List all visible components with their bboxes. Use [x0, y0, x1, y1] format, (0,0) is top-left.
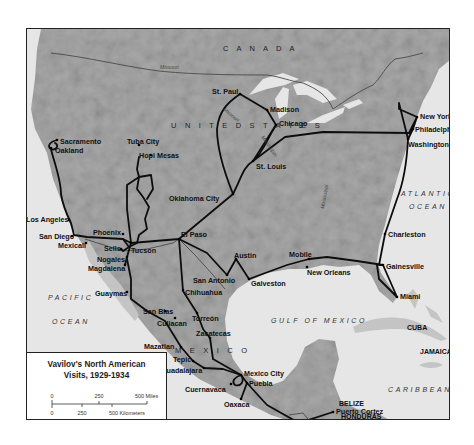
city-marker	[416, 116, 419, 119]
city-label: San Antonio	[193, 276, 236, 285]
scale-km-500: 500 Kilometers	[109, 410, 145, 416]
ocean-label: PACIFIC	[48, 294, 93, 301]
city-label: Tepic	[173, 355, 191, 364]
city-label: Mobile	[289, 250, 312, 259]
city-marker	[384, 233, 387, 236]
city-marker	[246, 382, 249, 385]
country-label: BELIZE	[339, 400, 364, 407]
city-marker	[56, 139, 59, 142]
city-marker	[248, 278, 251, 281]
country-label: GUATEMALA	[271, 418, 315, 420]
map-legend: Vavilov's North American Visits, 1929-19…	[26, 352, 167, 420]
city-label: Sacramento	[60, 137, 102, 146]
city-label: San Blas	[143, 307, 173, 316]
city-label: Cuernavaca	[185, 385, 227, 394]
city-marker	[240, 374, 243, 377]
city-label: Chicago	[279, 119, 308, 128]
city-label: Phoenix	[93, 228, 121, 237]
city-label: Tucson	[131, 246, 156, 255]
city-label: Oaxaca	[224, 400, 251, 409]
city-marker	[50, 147, 53, 150]
country-label: C A N A D A	[223, 44, 298, 53]
city-label: Culiacan	[157, 319, 187, 328]
scale-km-0: 0	[51, 410, 54, 416]
legend-title: Vavilov's North American Visits, 1929-19…	[27, 359, 166, 381]
city-label: Chihuahua	[185, 288, 223, 297]
country-label: M E X I C O	[175, 346, 250, 355]
city-marker	[332, 411, 335, 414]
city-label: New York	[420, 112, 450, 121]
city-marker	[239, 93, 242, 96]
city-label: Tuba City	[127, 137, 159, 146]
city-label: Miami	[400, 292, 420, 301]
city-label: Oklahoma City	[169, 194, 219, 203]
city-label: Guadalajara	[161, 366, 203, 375]
city-label: Madison	[270, 105, 299, 114]
city-marker	[126, 256, 129, 259]
city-label: Magdalena	[88, 264, 126, 273]
city-label: Puebla	[249, 379, 274, 388]
river-label: Missouri	[160, 64, 180, 70]
city-label: Mexicali	[58, 241, 86, 250]
legend-title-line2: Visits, 1929-1934	[27, 370, 166, 381]
city-marker	[130, 242, 133, 245]
city-label: San Diego	[39, 232, 75, 241]
city-label: Los Angeles	[27, 215, 68, 224]
country-label: JAMAICA	[420, 348, 450, 355]
ocean-label: GULF OF MEXICO	[271, 317, 367, 324]
scale-km-250: 250	[78, 410, 87, 416]
scale-bar: 0 250 500 Miles 0 250 500 Kilometers	[27, 391, 168, 419]
city-marker	[266, 109, 269, 112]
city-label: Hopi Mesas	[139, 151, 179, 160]
city-marker	[192, 360, 195, 363]
city-label: Mazatlan	[144, 342, 174, 351]
city-marker	[178, 238, 181, 241]
city-label: Torreón	[192, 314, 219, 323]
city-label: Gainesville	[386, 262, 424, 271]
city-label: Galveston	[251, 279, 286, 288]
city-label: Austin	[234, 251, 256, 260]
city-marker	[180, 346, 183, 349]
city-label: Nogales	[97, 255, 125, 264]
city-label: Zacatecas	[196, 329, 231, 338]
city-marker	[412, 128, 415, 131]
legend-title-line1: Vavilov's North American	[27, 359, 166, 370]
city-marker	[252, 160, 255, 163]
city-label: Sells	[104, 244, 121, 253]
scale-miles-0: 0	[51, 393, 54, 399]
city-label: Guaymas	[95, 289, 127, 298]
city-label: St. Louis	[256, 162, 286, 171]
city-marker	[396, 296, 399, 299]
ocean-label: ATLANTIC	[400, 190, 450, 197]
city-marker	[382, 264, 385, 267]
ocean-label: CARIBBEAN SEA	[388, 386, 450, 393]
city-label: El Paso	[181, 230, 208, 239]
city-label: Oakland	[55, 146, 83, 155]
city-label: New Orleans	[307, 268, 351, 277]
country-label: CUBA	[407, 324, 427, 331]
ocean-label: OCEAN	[409, 203, 447, 210]
city-label: Puerto Cortez	[336, 407, 384, 416]
city-marker	[230, 383, 233, 386]
city-label: St. Paul	[212, 87, 238, 96]
city-marker	[203, 367, 206, 370]
scale-miles-250: 250	[95, 393, 104, 399]
city-marker	[275, 124, 278, 127]
ocean-label: OCEAN	[52, 318, 90, 325]
scale-miles-500: 500 Miles	[135, 393, 158, 399]
city-label: Washington	[408, 140, 449, 149]
city-label: Philadelphia	[415, 125, 450, 134]
city-label: Mexico City	[244, 369, 284, 378]
city-marker	[122, 233, 125, 236]
city-label: Charleston	[388, 230, 426, 239]
city-marker	[182, 289, 185, 292]
city-marker	[232, 193, 235, 196]
